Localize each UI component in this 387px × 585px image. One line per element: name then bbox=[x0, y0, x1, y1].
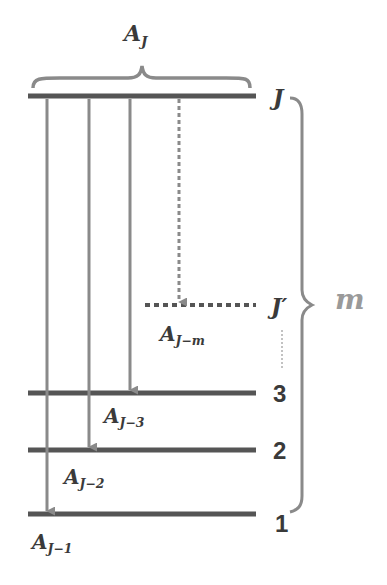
transition-label-J-1: AJ−1 bbox=[32, 530, 72, 556]
transition-label-J-m: AJ−m bbox=[160, 322, 205, 348]
label-sub: J−m bbox=[176, 333, 205, 348]
top-brace-label: AJ bbox=[124, 20, 148, 49]
side-brace-label: m bbox=[335, 283, 365, 316]
level-label-J-prime: J′ bbox=[271, 293, 287, 319]
label-sub: J−3 bbox=[120, 415, 145, 430]
label-sub: J−2 bbox=[80, 476, 105, 491]
level-label-1: 1 bbox=[275, 510, 288, 538]
decay-scheme-canvas bbox=[0, 0, 387, 585]
transition-label-J-3: AJ−3 bbox=[104, 404, 144, 430]
side-brace-icon bbox=[290, 98, 312, 512]
transition-label-J-2: AJ−2 bbox=[64, 465, 104, 491]
label-base: A bbox=[104, 404, 120, 428]
label-base: A bbox=[160, 322, 176, 346]
level-label-J: J bbox=[273, 84, 283, 110]
label-sub: J bbox=[141, 33, 147, 49]
level-label-2: 2 bbox=[273, 437, 286, 465]
label-base: A bbox=[32, 530, 48, 554]
label-base: A bbox=[64, 465, 80, 489]
top-brace-icon bbox=[33, 66, 250, 88]
level-label-3: 3 bbox=[273, 380, 286, 408]
label-base: A bbox=[124, 20, 141, 46]
label-sub: J−1 bbox=[48, 541, 73, 556]
